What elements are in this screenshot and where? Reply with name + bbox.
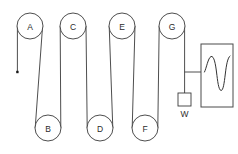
- pulley-g-label: G: [169, 22, 176, 32]
- pulley-b[interactable]: B: [35, 115, 61, 141]
- strand-b-to-c: [60, 26, 61, 128]
- weight-box: [178, 93, 191, 106]
- pulley-c-label: C: [70, 22, 76, 32]
- free-end-marker: [16, 71, 18, 73]
- pulley-e-label: E: [119, 22, 125, 32]
- strand-a-to-b-left: [35, 26, 42, 128]
- vibrating-string-box[interactable]: [201, 44, 233, 107]
- strand-c-to-d: [86, 26, 87, 128]
- pulley-c[interactable]: C: [60, 13, 86, 39]
- weight-label: W: [180, 109, 188, 119]
- string-strands: [17, 26, 184, 128]
- pulley-e[interactable]: E: [109, 13, 135, 39]
- hanging-weight[interactable]: W: [178, 93, 191, 119]
- pulley-a[interactable]: A: [17, 13, 43, 39]
- figure-root: A C E G B D F: [0, 0, 238, 154]
- pulley-a-label: A: [27, 22, 33, 32]
- pulley-diagram: A C E G B D F: [0, 0, 238, 154]
- pulley-b-label: B: [45, 124, 51, 134]
- strand-e-to-f: [132, 26, 135, 128]
- pulley-d-label: D: [97, 124, 103, 134]
- pulley-f[interactable]: F: [132, 115, 158, 141]
- pulley-f-label: F: [142, 124, 147, 134]
- pulley-d[interactable]: D: [87, 115, 113, 141]
- strand-f-to-g: [158, 26, 159, 128]
- pulley-g[interactable]: G: [159, 13, 185, 39]
- strand-d-to-e: [109, 26, 113, 128]
